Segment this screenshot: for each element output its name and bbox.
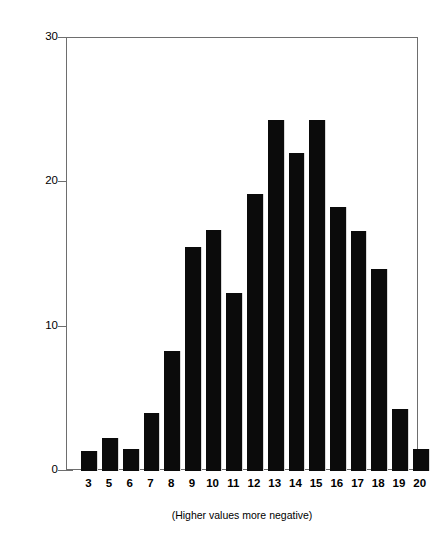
x-axis-caption: (Higher values more negative) <box>66 509 418 521</box>
x-axis-tick-label: 6 <box>119 476 140 490</box>
bar <box>81 451 98 471</box>
x-axis-tick-label: 18 <box>368 476 389 490</box>
x-axis-tick-label: 7 <box>140 476 161 490</box>
x-axis-tick-label: 3 <box>78 476 99 490</box>
bar <box>102 438 119 471</box>
x-axis-tick-label: 16 <box>326 476 347 490</box>
y-axis-tick-label: 10 <box>18 320 58 332</box>
x-axis-tick-label: 11 <box>223 476 244 490</box>
x-axis-tick-label: 10 <box>202 476 223 490</box>
x-axis-tick-label: 13 <box>264 476 285 490</box>
bar <box>247 194 264 471</box>
x-axis-tick-label: 8 <box>161 476 182 490</box>
bar <box>413 449 430 471</box>
bar <box>289 153 306 471</box>
x-axis-tick-label: 12 <box>244 476 265 490</box>
x-axis-tick-group: 3567891011121314151617181920 <box>66 476 418 492</box>
y-axis-tick-label: 20 <box>18 175 58 187</box>
bar <box>371 269 388 471</box>
histogram-figure: Number of Cases 3020100 3567891011121314… <box>0 0 439 553</box>
x-axis-tick-label: 15 <box>306 476 327 490</box>
bar <box>144 413 161 471</box>
y-axis-tick-label: 30 <box>18 31 58 43</box>
bar <box>164 351 181 471</box>
y-axis-tick-label: 0 <box>18 464 58 476</box>
x-axis-tick-label: 9 <box>182 476 203 490</box>
x-axis-tick-label: 19 <box>389 476 410 490</box>
plot-area <box>66 37 418 470</box>
bar-group <box>67 38 419 471</box>
bar <box>226 293 243 471</box>
bar <box>392 409 409 471</box>
bar <box>268 120 285 471</box>
bar <box>330 207 347 471</box>
x-axis-tick-label: 5 <box>99 476 120 490</box>
bar <box>185 247 202 471</box>
bar <box>351 231 368 471</box>
x-axis-tick-label: 14 <box>285 476 306 490</box>
x-axis-tick-label: 20 <box>409 476 430 490</box>
x-axis-tick-label: 17 <box>347 476 368 490</box>
bar <box>123 449 140 471</box>
bar <box>206 230 223 471</box>
bar <box>309 120 326 471</box>
